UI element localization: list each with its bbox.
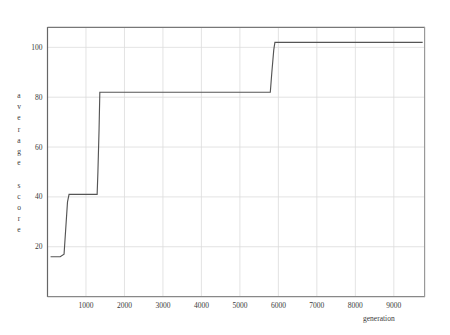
x-axis-tick-labels: 100020003000400050006000700080009000 — [78, 301, 401, 310]
y-axis-title: averagescore — [17, 91, 21, 234]
y-tick-label: 80 — [35, 93, 43, 102]
x-tick-label: 8000 — [348, 301, 363, 310]
y-axis-title-letter: o — [17, 203, 21, 212]
y-tick-label: 100 — [31, 43, 43, 52]
x-tick-label: 1000 — [78, 301, 93, 310]
y-axis-title-letter: c — [17, 192, 21, 201]
y-axis-title-letter: r — [18, 214, 21, 223]
y-axis-title-letter: a — [17, 136, 21, 145]
x-axis-title: generation — [363, 314, 395, 323]
series-line-average-score — [51, 42, 423, 256]
x-tick-label: 5000 — [232, 301, 247, 310]
grid-lines — [48, 27, 425, 296]
y-tick-label: 40 — [35, 192, 43, 201]
x-tick-label: 4000 — [194, 301, 209, 310]
x-tick-label: 3000 — [155, 301, 170, 310]
x-tick-label: 6000 — [271, 301, 286, 310]
y-axis-title-letter: a — [17, 91, 21, 100]
y-axis-title-letter: v — [17, 102, 21, 111]
plot-frame — [48, 27, 426, 297]
x-tick-label: 2000 — [117, 301, 132, 310]
y-tick-label: 20 — [35, 242, 43, 251]
chart-container: 20406080100 1000200030004000500060007000… — [0, 0, 450, 335]
y-axis-title-letter: e — [17, 113, 21, 122]
y-tick-label: 60 — [35, 143, 43, 152]
x-tick-label: 7000 — [309, 301, 324, 310]
y-axis-title-letter: s — [18, 181, 21, 190]
y-axis-title-letter: r — [18, 125, 21, 134]
y-axis-tick-labels: 20406080100 — [31, 43, 43, 251]
average-score-line-chart: 20406080100 1000200030004000500060007000… — [0, 0, 450, 335]
x-tick-label: 9000 — [386, 301, 401, 310]
y-axis-title-letter: g — [17, 147, 21, 156]
y-axis-title-letter: e — [17, 225, 21, 234]
y-axis-title-letter: e — [17, 158, 21, 167]
